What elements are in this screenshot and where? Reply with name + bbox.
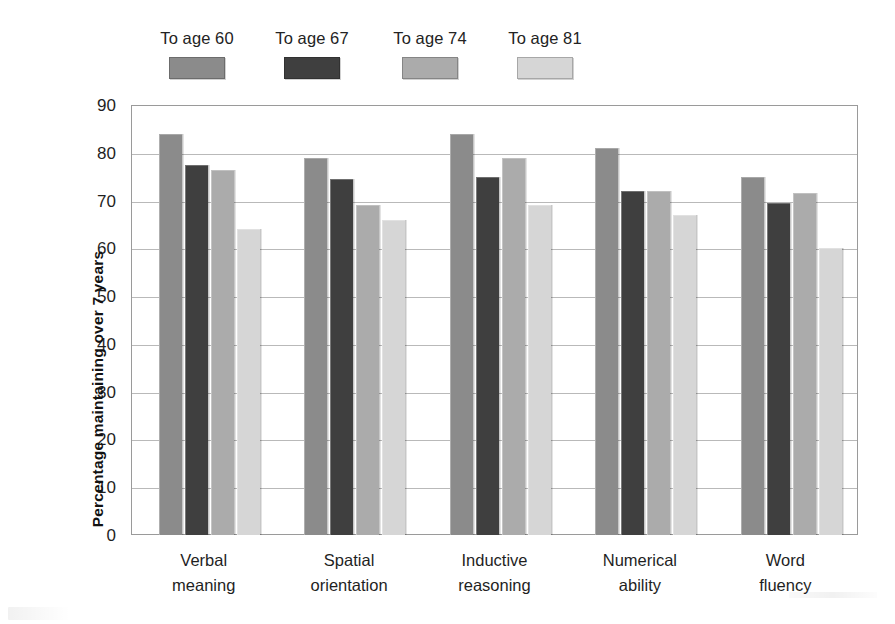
x-axis-label-3-line-1: ability (567, 573, 712, 598)
gridline-30 (132, 393, 857, 394)
y-tick-90: 90 (97, 97, 116, 114)
legend-label-2: To age 74 (370, 28, 490, 48)
legend-item-2: To age 74 (370, 28, 490, 79)
x-axis-label-1-line-1: orientation (276, 573, 421, 598)
legend-swatch-to-age-74 (402, 57, 458, 79)
plot-area (131, 105, 858, 535)
gridline-80 (132, 154, 857, 155)
x-axis-label-1-line-0: Spatial (276, 548, 421, 573)
legend-swatch-to-age-81 (517, 57, 573, 79)
legend-item-1: To age 67 (252, 28, 372, 79)
x-axis-label-2-line-1: reasoning (422, 573, 567, 598)
scan-artifact-secondary (789, 592, 877, 598)
y-axis: 90 80 70 60 50 40 30 20 10 0 Percentage … (60, 105, 124, 535)
y-tick-80: 80 (97, 144, 116, 161)
gridline-50 (132, 297, 857, 298)
x-axis-label-4-line-0: Word (713, 548, 858, 573)
y-axis-title: Percentage maintaining over 7 years (89, 199, 107, 579)
chart-legend: To age 60 To age 67 To age 74 To age 81 (131, 28, 631, 90)
x-axis-label-0: Verbalmeaning (131, 548, 276, 598)
gridline-10 (132, 488, 857, 489)
x-axis-label-3-line-0: Numerical (567, 548, 712, 573)
legend-label-3: To age 81 (485, 28, 605, 48)
legend-swatch-to-age-67 (284, 57, 340, 79)
y-tick-0: 0 (107, 527, 116, 544)
x-axis-label-3: Numericalability (567, 548, 712, 598)
x-axis-label-0-line-0: Verbal (131, 548, 276, 573)
x-axis-labels: VerbalmeaningSpatialorientationInductive… (131, 548, 858, 608)
legend-label-1: To age 67 (252, 28, 372, 48)
bar-chart-figure: To age 60 To age 67 To age 74 To age 81 … (0, 0, 895, 624)
legend-item-3: To age 81 (485, 28, 605, 79)
gridline-60 (132, 249, 857, 250)
x-axis-label-0-line-1: meaning (131, 573, 276, 598)
gridline-70 (132, 202, 857, 203)
scan-artifact (8, 607, 70, 620)
gridline-40 (132, 345, 857, 346)
x-axis-label-1: Spatialorientation (276, 548, 421, 598)
x-axis-label-4: Wordfluency (713, 548, 858, 598)
x-axis-label-2-line-0: Inductive (422, 548, 567, 573)
x-axis-label-2: Inductivereasoning (422, 548, 567, 598)
legend-swatch-to-age-60 (169, 57, 225, 79)
legend-label-0: To age 60 (137, 28, 257, 48)
gridline-20 (132, 440, 857, 441)
legend-item-0: To age 60 (137, 28, 257, 79)
